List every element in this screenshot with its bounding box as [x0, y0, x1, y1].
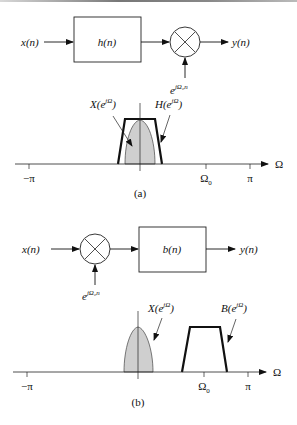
diagram-canvas: x(n) h(n) y(n) ejΩ₀n −π Ω0 π Ω X(ejΩ): [0, 0, 297, 425]
block-diagram-b: x(n) ejΩ₀n b(n) y(n): [21, 227, 258, 302]
tick-label-neg-pi-a: −π: [23, 172, 35, 184]
label-b-spectrum: B(ejΩ): [221, 301, 247, 315]
modulator-label-a: ejΩ₀n: [170, 83, 188, 96]
input-label-b: x(n): [21, 243, 40, 256]
spectrum-plot-a: −π Ω0 π Ω X(ejΩ) H(ejΩ): [15, 97, 283, 187]
label-x-spectrum-b: X(ejΩ): [147, 301, 174, 315]
mixer-icon-b: [80, 234, 110, 264]
axis-label-omega-b: Ω: [273, 366, 281, 378]
pointer-b: [228, 319, 236, 342]
caption-b: (b): [132, 396, 145, 409]
tick-label-pi-a: π: [247, 172, 253, 184]
filter-label-h: h(n): [98, 36, 117, 49]
output-label-b: y(n): [239, 243, 258, 256]
tick-label-omega0-b: Ω0: [198, 380, 210, 395]
input-label-a: x(n): [20, 36, 39, 49]
axis-label-omega-a: Ω: [275, 158, 283, 170]
filter-label-b: b(n): [163, 243, 182, 256]
label-x-spectrum-a: X(ejΩ): [89, 97, 116, 111]
tick-label-neg-pi-b: −π: [21, 380, 33, 392]
tick-label-pi-b: π: [245, 380, 251, 392]
filter-response-b: [182, 327, 227, 372]
spectrum-plot-b: −π Ω0 π Ω X(ejΩ) B(ejΩ): [13, 301, 281, 395]
block-diagram-a: x(n) h(n) y(n) ejΩ₀n: [20, 17, 250, 96]
pointer-x-b: [154, 318, 162, 340]
tick-label-omega0-a: Ω0: [200, 172, 212, 187]
modulator-label-b: ejΩ₀n: [82, 289, 100, 302]
output-label-a: y(n): [231, 36, 250, 49]
label-h-spectrum: H(ejΩ): [154, 97, 183, 111]
input-spectrum-shape-b: [124, 327, 153, 372]
caption-a: (a): [134, 187, 147, 200]
mixer-icon-a: [170, 27, 200, 57]
pointer-h: [161, 115, 170, 142]
